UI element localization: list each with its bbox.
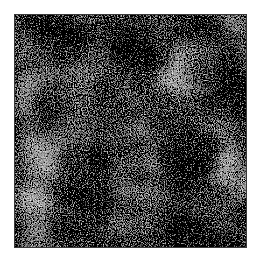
texture-image-frame bbox=[14, 14, 247, 248]
speckle-texture-image bbox=[15, 15, 246, 247]
